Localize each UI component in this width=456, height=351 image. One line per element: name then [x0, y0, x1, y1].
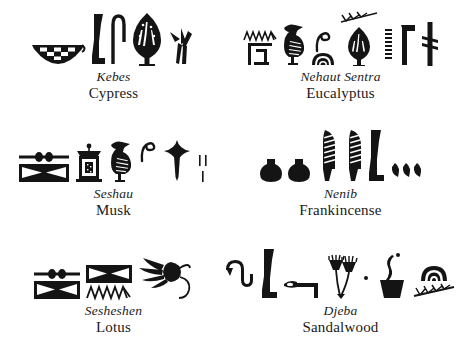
ribbed-feather-glyph [315, 129, 337, 183]
tree-glyph [346, 26, 372, 66]
round-jar-glyph [287, 157, 311, 183]
caption: Seshau Musk [94, 186, 133, 219]
tree-glyph [130, 12, 164, 66]
folded-cloth-glyph [33, 280, 81, 300]
transliteration: Djeba [302, 303, 378, 318]
glyph-row [18, 121, 210, 183]
transliteration: Nenib [299, 186, 381, 201]
shrine-box-glyph [74, 143, 104, 183]
dot-glyph [362, 260, 370, 300]
caption: Sesheshen Lotus [85, 303, 142, 336]
enclosure-square-glyph [247, 42, 273, 66]
hoe-glyph [282, 274, 322, 300]
entry-cell-nehaut-sentra: Nehaut Sentra Eucalyptus [227, 0, 454, 117]
entry-cell-sesheshen: Sesheshen Lotus [0, 234, 227, 351]
caption: Kebes Cypress [89, 69, 139, 102]
hill-mound-glyph [420, 264, 448, 282]
english-name: Eucalyptus [300, 85, 380, 102]
english-name: Lotus [85, 319, 142, 336]
beaded-bar-glyph [18, 151, 70, 163]
sesheshen-column-1 [33, 268, 81, 300]
triple-tick-column-glyph [383, 26, 395, 66]
bent-staff-glyph [399, 24, 417, 66]
branch-glyph [339, 10, 379, 26]
pestle-glyph [421, 22, 439, 66]
nehaut-column-1 [243, 30, 277, 66]
coil-glyph [313, 30, 333, 52]
leg-glyph [260, 248, 278, 300]
english-name: Sandalwood [302, 319, 378, 336]
glyph-row [30, 4, 198, 66]
twin-papyrus-glyph [326, 252, 358, 300]
lotus-flower-glyph [137, 252, 195, 300]
english-name: Cypress [89, 85, 139, 102]
coil-glyph [138, 139, 158, 183]
glyph-row [243, 4, 439, 66]
beaded-bar-glyph [33, 268, 81, 280]
seshau-column-1 [18, 151, 70, 183]
branch-glyph [412, 282, 456, 300]
incense-brazier-glyph [374, 250, 408, 300]
tally-strokes-glyph [196, 147, 210, 183]
round-jar-glyph [259, 157, 283, 183]
sesheshen-column-2 [85, 264, 133, 300]
hill-mound-glyph [311, 52, 335, 66]
folded-cloth-glyph [85, 264, 133, 284]
cobra-glyph [226, 256, 256, 300]
english-name: Frankincense [299, 202, 381, 219]
glyph-row [226, 238, 456, 300]
water-ripple-glyph [243, 30, 277, 42]
leg-glyph [367, 129, 385, 183]
transliteration: Nehaut Sentra [300, 69, 380, 84]
caption: Nenib Frankincense [299, 186, 381, 219]
reeds-glyph [168, 26, 198, 66]
transliteration: Kebes [89, 69, 139, 84]
shepherds-crook-glyph [110, 14, 126, 66]
water-ripple-glyph [85, 284, 133, 300]
caption: Nehaut Sentra Eucalyptus [300, 69, 380, 102]
transliteration: Sesheshen [85, 303, 142, 318]
nehaut-column-4 [339, 10, 379, 66]
folded-cloth-glyph [18, 163, 70, 183]
three-grains-glyph [389, 157, 423, 183]
caption: Djeba Sandalwood [302, 303, 378, 336]
djeba-column-7 [412, 264, 456, 300]
english-name: Musk [94, 202, 133, 219]
entry-cell-seshau: Seshau Musk [0, 117, 227, 234]
leg-glyph [90, 14, 106, 66]
bird-glyph [281, 22, 307, 66]
nehaut-column-3 [311, 30, 335, 66]
glyph-row [259, 121, 423, 183]
entry-cell-djeba: Djeba Sandalwood [227, 234, 454, 351]
glyph-row [33, 238, 195, 300]
transliteration: Seshau [94, 186, 133, 201]
entry-cell-nenib: Nenib Frankincense [227, 117, 454, 234]
bird-glyph [108, 139, 134, 183]
boat-basket-glyph [30, 40, 86, 66]
ribbed-feather-glyph [341, 129, 363, 183]
entry-cell-kebes: Kebes Cypress [0, 0, 227, 117]
star-pestle-glyph [162, 137, 192, 183]
